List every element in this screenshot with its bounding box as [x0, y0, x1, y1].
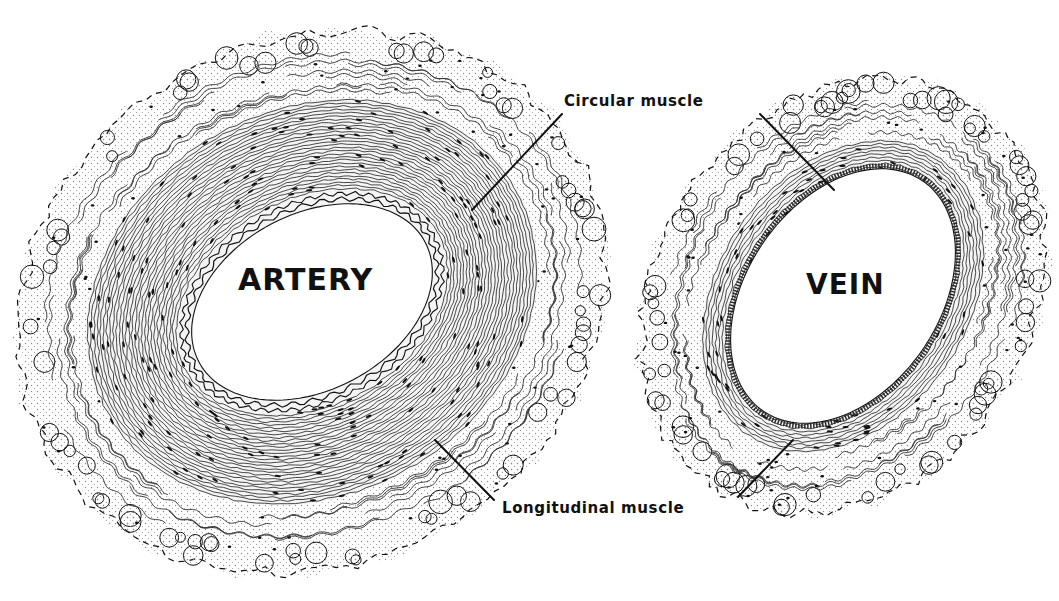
vein-label: VEIN: [806, 268, 885, 301]
circular-muscle-label: Circular muscle: [562, 92, 705, 110]
artery-label: ARTERY: [238, 262, 373, 297]
longitudinal-muscle-label: Longitudinal muscle: [500, 499, 686, 517]
